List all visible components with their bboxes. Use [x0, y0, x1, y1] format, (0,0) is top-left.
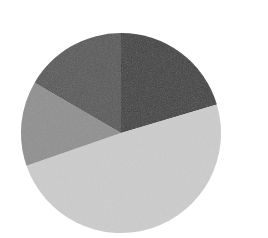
pie-slices	[21, 33, 221, 233]
pie-chart	[0, 0, 268, 238]
